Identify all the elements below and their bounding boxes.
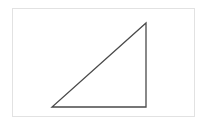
right-triangle bbox=[52, 23, 146, 107]
diagram-canvas bbox=[0, 0, 207, 126]
